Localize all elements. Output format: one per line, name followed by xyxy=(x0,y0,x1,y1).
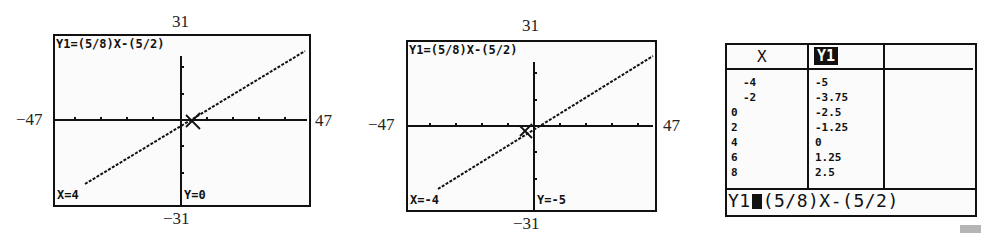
table-cell-x[interactable]: 2 xyxy=(731,120,738,135)
table-cell-x[interactable]: 8 xyxy=(731,165,738,180)
table-cell-x[interactable]: -2 xyxy=(743,90,756,105)
graph2-xmin-label: −47 xyxy=(368,116,395,133)
graph1-xmax-label: 47 xyxy=(315,112,332,129)
table-cell-y[interactable]: 0 xyxy=(815,135,822,150)
graph1-screen: Y1=(5/8)X-(5/2) X=4 Y=0 xyxy=(53,34,311,207)
graph2-screen: Y1=(5/8)X-(5/2) X=-4 Y=-5 xyxy=(406,40,657,212)
graph1-ymax-label: 31 xyxy=(172,13,189,30)
table-cell-x[interactable]: 0 xyxy=(731,105,738,120)
table-cell-x[interactable]: 6 xyxy=(731,150,738,165)
table-cell-y[interactable]: -3.75 xyxy=(815,90,848,105)
graph2-x-readout: X=-4 xyxy=(410,194,439,206)
table-cell-x[interactable]: -4 xyxy=(743,75,756,90)
graph2-ymax-label: 31 xyxy=(522,17,539,34)
graph1-plot xyxy=(55,36,309,205)
table-header-y1[interactable]: Y1 xyxy=(814,47,838,66)
graph1-y-readout: Y=0 xyxy=(184,189,206,201)
graph1-xmin-label: −47 xyxy=(16,111,43,128)
gray-marker xyxy=(960,225,981,233)
table-footer-expression: Y1(5/8)X-(5/2) xyxy=(728,192,899,210)
table-cell-y[interactable]: -2.5 xyxy=(815,105,842,120)
equals-cursor-icon xyxy=(752,194,762,209)
graph1-x-readout: X=4 xyxy=(57,189,79,201)
footer-y1-label: Y1 xyxy=(728,190,751,211)
table-cell-y[interactable]: 2.5 xyxy=(815,165,835,180)
graph1-ymin-label: −31 xyxy=(163,210,190,227)
table-cell-y[interactable]: 1.25 xyxy=(815,150,842,165)
table-header-x: X xyxy=(757,49,767,65)
graph2-plot xyxy=(408,42,655,210)
graph2-equation: Y1=(5/8)X-(5/2) xyxy=(409,44,517,56)
graph2-y-readout: Y=-5 xyxy=(537,194,566,206)
graph2-ymin-label: −31 xyxy=(513,215,540,232)
table-cell-y[interactable]: -5 xyxy=(815,75,828,90)
table-screen: X Y1 -4 -5 -2 -3.75 0 -2.5 2 -1.25 4 0 6… xyxy=(725,43,977,217)
graph2-line xyxy=(438,56,653,189)
table-cell-y[interactable]: -1.25 xyxy=(815,120,848,135)
graph1-equation: Y1=(5/8)X-(5/2) xyxy=(56,38,164,50)
table-cell-x[interactable]: 4 xyxy=(731,135,738,150)
footer-expr: (5/8)X-(5/2) xyxy=(763,190,899,211)
graph2-xmax-label: 47 xyxy=(663,117,680,134)
